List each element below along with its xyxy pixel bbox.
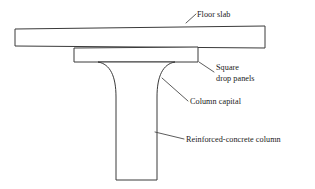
- label-square-drop-panels-line-1: Square: [216, 63, 239, 72]
- label-floor-slab-line-1: Floor slab: [197, 10, 230, 19]
- floor-slab-shape: [15, 26, 265, 48]
- label-square-drop-panels-line-2: drop panels: [216, 74, 255, 83]
- flat-slab-diagram: Floor slab Square drop panels Column cap…: [0, 0, 315, 189]
- label-floor-slab: Floor slab: [197, 10, 230, 19]
- leader-line-column-capital: [162, 78, 188, 101]
- label-column-capital: Column capital: [190, 97, 242, 106]
- label-reinforced-concrete-column: Reinforced-concrete column: [186, 135, 281, 144]
- leader-line-floor-slab: [186, 14, 196, 23]
- label-column-capital-line-1: Column capital: [190, 97, 242, 106]
- label-square-drop-panels: Square drop panels: [216, 63, 255, 83]
- drop-panel-shape: [74, 47, 198, 62]
- leader-line-square-drop-panels: [199, 62, 214, 72]
- leader-line-reinforced-concrete-column: [155, 132, 184, 139]
- label-reinforced-concrete-column-line-1: Reinforced-concrete column: [186, 135, 281, 144]
- figure-container: Floor slab Square drop panels Column cap…: [0, 0, 315, 189]
